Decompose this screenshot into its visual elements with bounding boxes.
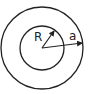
diagram-canvas: R a	[0, 0, 88, 94]
concentric-circles-diagram: R a	[0, 0, 88, 94]
outer-radius-label: a	[69, 29, 76, 43]
inner-radius-arrow	[42, 31, 54, 48]
inner-radius-label: R	[34, 30, 42, 44]
outer-radius-arrow	[42, 43, 82, 48]
